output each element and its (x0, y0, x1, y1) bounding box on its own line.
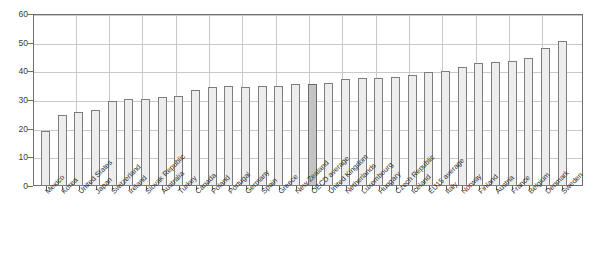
bar (558, 41, 567, 186)
x-axis-labels: MexicoKoreaUnited StatesJapanSwitzerland… (0, 190, 597, 255)
bar (41, 131, 50, 186)
bar (491, 62, 500, 186)
bar (508, 61, 517, 186)
bar (524, 58, 533, 186)
bar (74, 112, 83, 186)
bar (474, 63, 483, 186)
bar-chart: 0102030405060 MexicoKoreaUnited StatesJa… (0, 0, 597, 255)
bar (291, 84, 300, 186)
bar (274, 86, 283, 186)
y-axis: 0102030405060 (0, 0, 33, 200)
bar (191, 90, 200, 186)
bar (541, 48, 550, 186)
bar (108, 101, 117, 186)
bar (224, 86, 233, 186)
bars-layer (33, 14, 583, 186)
